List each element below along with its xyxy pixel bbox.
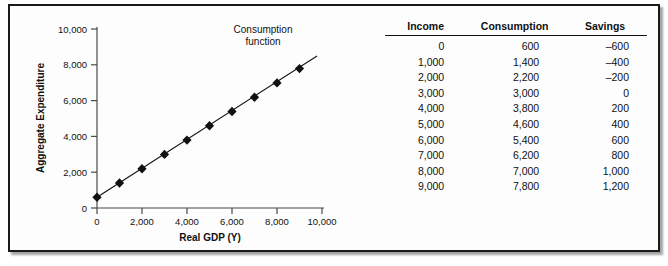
table-header: Income Consumption Savings <box>385 20 647 36</box>
cell-savings: 200 <box>563 101 647 117</box>
table-row: 4,000 3,800 200 <box>385 101 647 117</box>
cell-income: 9,000 <box>385 179 466 195</box>
consumption-function-annotation-line1: Consumption <box>234 24 293 35</box>
chart-svg: 0 2,000 4,000 6,000 8,000 10,000 0 2,000… <box>10 6 340 250</box>
data-table: Income Consumption Savings 0 600 –600 1,… <box>385 20 647 195</box>
cell-consumption: 1,400 <box>466 55 563 71</box>
cell-consumption: 7,000 <box>466 164 563 180</box>
cell-savings: –600 <box>563 36 647 55</box>
y-tick-label-1: 2,000 <box>63 167 87 178</box>
x-tick-label-4: 8,000 <box>265 216 289 227</box>
table-row: 6,000 5,400 600 <box>385 133 647 149</box>
cell-savings: 400 <box>563 117 647 133</box>
y-axis-ticks <box>91 29 97 208</box>
cell-income: 0 <box>385 36 466 55</box>
income-consumption-savings-table: Income Consumption Savings 0 600 –600 1,… <box>385 20 647 195</box>
table-row: 7,000 6,200 800 <box>385 148 647 164</box>
cell-income: 7,000 <box>385 148 466 164</box>
column-header-consumption: Consumption <box>466 20 563 36</box>
cell-savings: 0 <box>563 86 647 102</box>
cell-income: 8,000 <box>385 164 466 180</box>
cell-consumption: 6,200 <box>466 148 563 164</box>
figure-panel: 0 2,000 4,000 6,000 8,000 10,000 0 2,000… <box>8 4 660 252</box>
y-tick-label-2: 4,000 <box>63 131 87 142</box>
cell-consumption: 4,600 <box>466 117 563 133</box>
cell-savings: 600 <box>563 133 647 149</box>
data-point-3 <box>160 150 169 159</box>
cell-consumption: 5,400 <box>466 133 563 149</box>
x-tick-label-0: 0 <box>94 216 99 227</box>
y-tick-label-3: 6,000 <box>63 95 87 106</box>
column-header-income: Income <box>385 20 466 36</box>
table-row: 3,000 3,000 0 <box>385 86 647 102</box>
table-body: 0 600 –600 1,000 1,400 –400 2,000 2,200 … <box>385 36 647 195</box>
x-tick-label-2: 4,000 <box>175 216 199 227</box>
cell-savings: 1,200 <box>563 179 647 195</box>
cell-consumption: 600 <box>466 36 563 55</box>
table-row: 9,000 7,800 1,200 <box>385 179 647 195</box>
x-tick-label-1: 2,000 <box>130 216 154 227</box>
cell-savings: 800 <box>563 148 647 164</box>
consumption-function-chart: 0 2,000 4,000 6,000 8,000 10,000 0 2,000… <box>10 6 340 250</box>
y-tick-label-4: 8,000 <box>63 59 87 70</box>
cell-income: 1,000 <box>385 55 466 71</box>
table-row: 1,000 1,400 –400 <box>385 55 647 71</box>
data-point-1 <box>115 178 124 187</box>
y-axis-title: Aggregate Expenditure <box>35 63 46 173</box>
x-axis-ticks <box>97 208 322 214</box>
x-tick-label-5: 10,000 <box>307 216 336 227</box>
table-row: 8,000 7,000 1,000 <box>385 164 647 180</box>
cell-consumption: 3,000 <box>466 86 563 102</box>
cell-savings: –400 <box>563 55 647 71</box>
cell-income: 6,000 <box>385 133 466 149</box>
y-tick-label-0: 0 <box>82 203 87 214</box>
cell-consumption: 7,800 <box>466 179 563 195</box>
y-tick-label-5: 10,000 <box>58 24 87 35</box>
table-header-row: Income Consumption Savings <box>385 20 647 36</box>
x-axis-title: Real GDP (Y) <box>179 232 241 243</box>
table-row: 0 600 –600 <box>385 36 647 55</box>
cell-income: 4,000 <box>385 101 466 117</box>
cell-consumption: 2,200 <box>466 70 563 86</box>
column-header-savings: Savings <box>563 20 647 36</box>
consumption-function-annotation-line2: function <box>245 36 280 47</box>
cell-consumption: 3,800 <box>466 101 563 117</box>
cell-savings: 1,000 <box>563 164 647 180</box>
data-point-2 <box>137 164 146 173</box>
table-row: 2,000 2,200 –200 <box>385 70 647 86</box>
x-tick-label-3: 6,000 <box>220 216 244 227</box>
cell-savings: –200 <box>563 70 647 86</box>
data-point-0 <box>92 193 101 202</box>
cell-income: 5,000 <box>385 117 466 133</box>
cell-income: 3,000 <box>385 86 466 102</box>
cell-income: 2,000 <box>385 70 466 86</box>
table-row: 5,000 4,600 400 <box>385 117 647 133</box>
